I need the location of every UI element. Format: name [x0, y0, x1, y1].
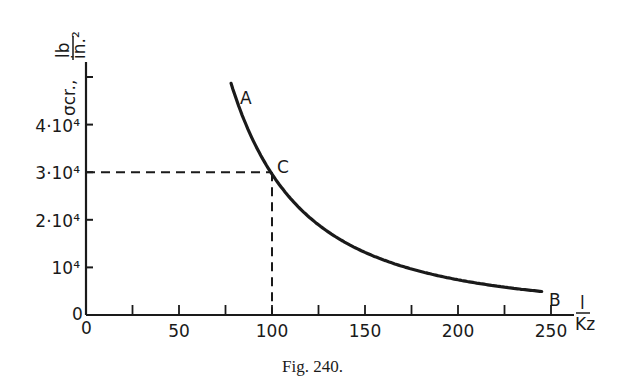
euler-column-chart: 10⁴2·10⁴3·10⁴4·10⁴ 50100150200250 A C B …: [0, 0, 633, 390]
x-tick-label: 150: [349, 321, 381, 341]
point-label-c: C: [277, 157, 289, 177]
critical-stress-curve: [231, 83, 542, 291]
point-label-a: A: [240, 88, 252, 108]
x-axis-label: l Kz: [575, 293, 595, 334]
y-axis-unit-den: in.²: [69, 31, 89, 59]
x-tick-label: 200: [442, 321, 474, 341]
y-tick-label: 4·10⁴: [35, 116, 80, 136]
y-axis-symbol: σcr.,: [59, 80, 79, 116]
x-tick-labels: 50100150200250: [168, 321, 567, 341]
y-tick-label: 3·10⁴: [35, 163, 80, 183]
figure-caption: Fig. 240.: [282, 357, 343, 376]
y-tick-labels: 10⁴2·10⁴3·10⁴4·10⁴: [35, 116, 80, 279]
x-tick-label: 100: [256, 321, 288, 341]
y-tick-label: 2·10⁴: [35, 211, 80, 231]
origin-x-label: 0: [81, 318, 92, 338]
y-axis-label: σcr., lb in.²: [53, 31, 89, 116]
x-axis-num: l: [580, 293, 585, 313]
x-tick-label: 50: [168, 321, 190, 341]
axes: [86, 62, 574, 315]
x-tick-label: 250: [535, 321, 567, 341]
x-axis-den: Kz: [575, 314, 595, 334]
point-label-b: B: [549, 290, 561, 310]
x-ticks: [133, 305, 552, 315]
guide-lines: [86, 172, 272, 315]
y-tick-label: 10⁴: [52, 258, 81, 278]
